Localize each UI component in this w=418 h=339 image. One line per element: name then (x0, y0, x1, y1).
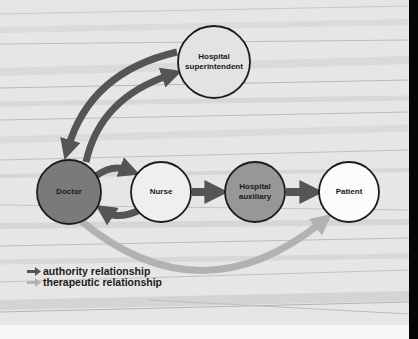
arrow-doctor-to-superintendent (86, 75, 170, 162)
legend-item-therapeutic: therapeutic relationship (27, 277, 162, 288)
node-nurse (131, 162, 191, 222)
legend-therapeutic-label: therapeutic relationship (43, 277, 162, 288)
diagram-canvas: Hospital superintendent Doctor Nurse Hos… (0, 0, 418, 339)
node-superintendent (178, 26, 250, 98)
node-auxiliary (225, 162, 285, 222)
arrow-doctor-to-nurse (96, 168, 128, 176)
arrow-nurse-to-doctor (106, 210, 140, 216)
authority-arrow-icon (27, 267, 41, 276)
node-patient (319, 162, 379, 222)
arrow-therapeutic-doctor-to-patient (80, 220, 322, 271)
node-doctor (37, 160, 101, 224)
therapeutic-arrow-icon (27, 278, 41, 287)
bottom-margin (0, 325, 409, 339)
right-edge-band (409, 0, 418, 339)
